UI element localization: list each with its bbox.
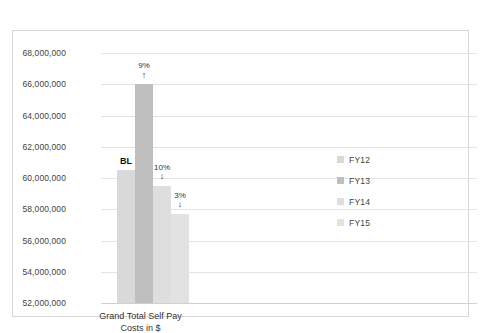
x-axis-label: Grand Total Self PayCosts in $ [73, 310, 208, 333]
legend-item-fy15[interactable]: FY15 [337, 212, 417, 233]
legend-item-fy13[interactable]: FY13 [337, 170, 417, 191]
legend-label: FY14 [349, 197, 370, 207]
bar-annotation-fy13: 9%↑ [121, 62, 167, 79]
y-axis-tick-label: 54,000,000 [0, 267, 66, 277]
gridline [101, 53, 477, 54]
arrow-up-icon: ↑ [121, 71, 167, 80]
gridline [101, 147, 477, 148]
legend-swatch-icon [337, 198, 344, 205]
bar-annotation-fy14: 10%↓ [139, 164, 185, 181]
bar-fy15[interactable] [171, 214, 189, 303]
chart-legend: FY12FY13FY14FY15 [337, 149, 417, 233]
y-axis-tick-label: 68,000,000 [0, 48, 66, 58]
arrow-down-icon: ↓ [139, 172, 185, 181]
annotation-text: 9% [138, 61, 150, 70]
x-axis-label-line: Costs in $ [73, 322, 208, 333]
arrow-down-icon: ↓ [157, 200, 203, 209]
y-axis-tick-label: 52,000,000 [0, 298, 66, 308]
y-axis-tick-label: 60,000,000 [0, 173, 66, 183]
y-axis-tick-label: 58,000,000 [0, 204, 66, 214]
legend-item-fy12[interactable]: FY12 [337, 149, 417, 170]
annotation-text: BL [120, 156, 132, 166]
legend-swatch-icon [337, 156, 344, 163]
legend-label: FY13 [349, 176, 370, 186]
legend-swatch-icon [337, 177, 344, 184]
legend-label: FY12 [349, 155, 370, 165]
legend-item-fy14[interactable]: FY14 [337, 191, 417, 212]
legend-swatch-icon [337, 219, 344, 226]
chart-frame: 68,000,00066,000,00064,000,00062,000,000… [12, 30, 469, 317]
bar-annotation-fy15: 3%↓ [157, 192, 203, 209]
x-axis-label-line: Grand Total Self Pay [73, 310, 208, 322]
bar-fy12[interactable] [117, 170, 135, 303]
gridline [101, 84, 477, 85]
y-axis-tick-label: 66,000,000 [0, 79, 66, 89]
bar-fy13[interactable] [135, 84, 153, 303]
legend-label: FY15 [349, 218, 370, 228]
gridline [101, 303, 477, 304]
gridline [101, 116, 477, 117]
y-axis-tick-label: 64,000,000 [0, 111, 66, 121]
y-axis-tick-label: 56,000,000 [0, 236, 66, 246]
y-axis-tick-label: 62,000,000 [0, 142, 66, 152]
